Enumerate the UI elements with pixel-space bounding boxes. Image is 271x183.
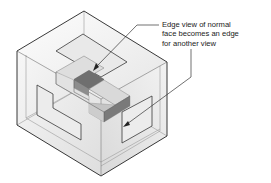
glass-box-diagram: Edge view of normal face becomes an edge… — [0, 0, 271, 183]
callout-line-3: for another view — [162, 39, 271, 48]
callout-line-2: face becomes an edge — [162, 29, 271, 38]
callout-line-1: Edge view of normal — [162, 20, 271, 29]
callout-label: Edge view of normal face becomes an edge… — [162, 20, 271, 48]
